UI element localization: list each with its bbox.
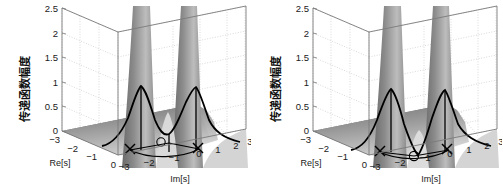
svg-text:3: 3 <box>498 136 502 147</box>
svg-text:1: 1 <box>215 144 220 155</box>
svg-text:1: 1 <box>53 77 58 88</box>
svg-text:2: 2 <box>484 140 489 151</box>
svg-text:2.5: 2.5 <box>296 3 309 14</box>
svg-text:0: 0 <box>362 159 367 170</box>
svg-text:1.5: 1.5 <box>296 52 309 63</box>
svg-text:1: 1 <box>466 144 471 155</box>
svg-text:2: 2 <box>304 28 309 39</box>
svg-text:1: 1 <box>304 77 309 88</box>
svg-text:−3: −3 <box>370 161 381 172</box>
chart-panel-right: 传递函数幅度 <box>251 0 502 196</box>
svg-text:2: 2 <box>53 28 58 39</box>
x-axis-label-left: Re[s] <box>49 158 70 168</box>
z-tick-marks-right <box>313 8 317 132</box>
svg-text:−3: −3 <box>119 161 130 172</box>
svg-text:−2: −2 <box>318 143 329 154</box>
svg-text:−1: −1 <box>420 152 431 163</box>
svg-text:−1: −1 <box>169 152 180 163</box>
svg-text:−3: −3 <box>300 134 311 145</box>
svg-text:−2: −2 <box>144 157 155 168</box>
svg-text:−2: −2 <box>67 143 78 154</box>
y-axis-label-right: Im[s] <box>421 174 441 184</box>
svg-text:−1: −1 <box>86 151 97 162</box>
svg-text:2: 2 <box>233 140 238 151</box>
svg-text:1.5: 1.5 <box>45 52 58 63</box>
z-axis-ticks-left: 2.5 2 1.5 1 0.5 0 <box>45 3 58 136</box>
figure-root: 传递函数幅度 <box>0 0 503 196</box>
x-axis-label-right: Re[s] <box>300 158 321 168</box>
svg-text:0.5: 0.5 <box>296 101 309 112</box>
svg-text:−2: −2 <box>395 157 406 168</box>
svg-text:0: 0 <box>196 148 201 159</box>
plot-canvas-right: 2.5 2 1.5 1 0.5 0 −3 −2 −1 0 Re[ <box>251 0 502 196</box>
y-axis-label-left: Im[s] <box>170 174 190 184</box>
svg-text:0: 0 <box>447 148 452 159</box>
svg-text:0: 0 <box>111 159 116 170</box>
plot-canvas-left: 2.5 2 1.5 1 0.5 0 −3 −2 −1 0 <box>0 0 251 196</box>
svg-text:−3: −3 <box>49 134 60 145</box>
svg-text:−1: −1 <box>337 151 348 162</box>
svg-text:2.5: 2.5 <box>45 3 58 14</box>
chart-panel-left: 传递函数幅度 <box>0 0 251 196</box>
z-axis-ticks-right: 2.5 2 1.5 1 0.5 0 <box>296 3 309 136</box>
svg-text:0.5: 0.5 <box>45 101 58 112</box>
z-tick-marks-left <box>62 8 66 132</box>
